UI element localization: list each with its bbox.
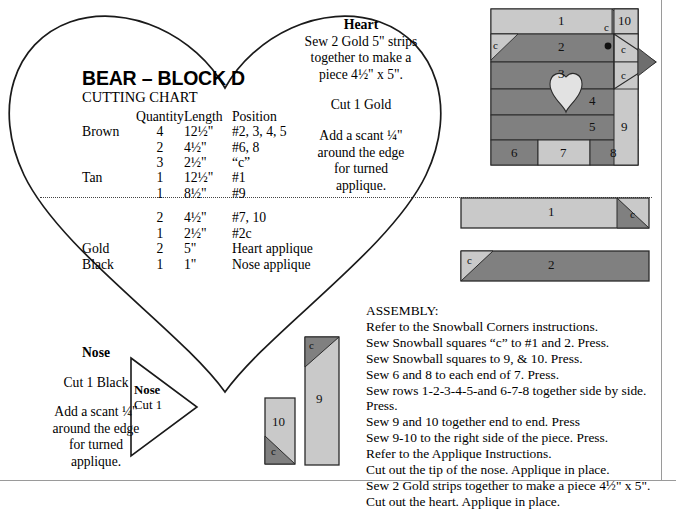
heart-instructions: Heart Sew 2 Gold 5" strips together to m… xyxy=(268,17,454,194)
cutting-chart-cell-length: 5" xyxy=(184,241,232,256)
cutting-chart-cell-quantity: 1 xyxy=(136,257,184,272)
cutting-chart-header-quantity: Quantity xyxy=(136,109,184,124)
cutting-chart-cell-color: Black xyxy=(82,257,136,272)
eye-dot xyxy=(605,43,612,50)
nose-assembly xyxy=(614,34,656,89)
assembly-step: Sew Snowball squares “c” to #1 and 2. Pr… xyxy=(366,335,672,351)
assembly-step: Sew 6 and 8 to each end of 7. Press. xyxy=(366,367,672,383)
cutting-chart-cell-length: 12½" xyxy=(184,170,232,185)
cutting-chart-cell-color: Tan xyxy=(82,170,136,185)
cutting-chart-cell-color xyxy=(82,186,136,201)
cutting-chart-cell-length: 8½" xyxy=(184,186,232,201)
table-row: Black11"Nose applique xyxy=(82,257,313,272)
cutting-chart-cell-length: 4½" xyxy=(184,140,232,155)
assembly-heading: ASSEMBLY: xyxy=(366,303,672,319)
cutting-chart-cell-color xyxy=(82,155,136,170)
cutting-chart-header-color xyxy=(82,109,136,124)
assembly-step-list: Refer to the Snowball Corners instructio… xyxy=(366,319,672,510)
spacer xyxy=(82,201,313,210)
cutting-chart-cell-quantity: 2 xyxy=(136,210,184,225)
assembly-step: Cut out the tip of the nose. Applique in… xyxy=(366,462,672,478)
block-piece-10 xyxy=(614,9,638,34)
cutting-chart-cell-position: #7, 10 xyxy=(232,210,313,225)
cutting-chart-fold-gap xyxy=(82,201,313,210)
table-row: 12½"#2c xyxy=(82,226,313,241)
block-row-6 xyxy=(491,140,538,165)
heart-note-title: Heart xyxy=(268,17,454,34)
assembly-step: Sew 9 and 10 together end to end. Press xyxy=(366,414,672,430)
cutting-chart-cell-quantity: 1 xyxy=(136,226,184,241)
cutting-chart-cell-position: Heart applique xyxy=(232,241,313,256)
heart-note-seam3: for turned xyxy=(268,161,454,178)
piece-10-diagram: 10 c xyxy=(264,397,296,465)
strip-1-diagram: 1 c xyxy=(460,197,650,229)
assembly-step: Sew rows 1-2-3-4-5-and 6-7-8 together si… xyxy=(366,383,672,415)
cutting-chart-cell-quantity: 1 xyxy=(136,170,184,185)
assembly-step: Sew 9-10 to the right side of the piece.… xyxy=(366,430,672,446)
nose-template-cut: Cut 1 xyxy=(134,398,162,412)
block-diagram: 1 2 3 4 5 6 7 8 9 10 c c c c xyxy=(490,8,662,166)
heart-note-line2: together to make a xyxy=(268,50,454,67)
heart-note-seam2: around the edge xyxy=(268,145,454,162)
spacer xyxy=(268,83,454,97)
heart-note-seam1: Add a scant ¼" xyxy=(268,128,454,145)
page-bottom-rule xyxy=(0,480,676,481)
piece-9-diagram: 9 c xyxy=(304,336,340,466)
block-diagram-svg xyxy=(490,8,662,166)
cutting-chart-cell-quantity: 2 xyxy=(136,241,184,256)
cutting-chart-cell-color xyxy=(82,226,136,241)
heart-note-seam4: applique. xyxy=(268,178,454,195)
cutting-chart-cell-length: 12½" xyxy=(184,124,232,139)
cutting-chart-cell-quantity: 1 xyxy=(136,186,184,201)
heart-note-line3: piece 4½" x 5". xyxy=(268,67,454,84)
cutting-chart-cell-length: 1" xyxy=(184,257,232,272)
cutting-chart-header-length: Length xyxy=(184,109,232,124)
cutting-chart-cell-quantity: 3 xyxy=(136,155,184,170)
assembly-instructions: ASSEMBLY: Refer to the Snowball Corners … xyxy=(366,303,672,510)
nose-template-title: Nose xyxy=(134,383,160,397)
nose-template-shape: Nose Cut 1 xyxy=(128,355,200,460)
assembly-step: Refer to the Snowball Corners instructio… xyxy=(366,319,672,335)
cutting-chart-cell-length: 4½" xyxy=(184,210,232,225)
cutting-chart-cell-quantity: 2 xyxy=(136,140,184,155)
nose-template-label: Nose Cut 1 xyxy=(134,383,162,412)
assembly-step: Cut out the heart. Applique in place. xyxy=(366,494,672,510)
heart-note-cut: Cut 1 Gold xyxy=(268,97,454,114)
heart-note-line1: Sew 2 Gold 5" strips xyxy=(268,34,454,51)
cutting-chart-cell-color xyxy=(82,140,136,155)
cutting-chart-cell-color: Brown xyxy=(82,124,136,139)
page-right-rule xyxy=(661,0,662,481)
spacer xyxy=(268,114,454,128)
block-row-7 xyxy=(538,140,590,165)
cutting-chart-cell-quantity: 4 xyxy=(136,124,184,139)
cutting-chart-cell-position: #2c xyxy=(232,226,313,241)
strip-2-diagram: 2 c xyxy=(460,250,650,282)
cutting-chart-cell-length: 2½" xyxy=(184,226,232,241)
table-row: 24½"#7, 10 xyxy=(82,210,313,225)
cutting-chart-cell-position: Nose applique xyxy=(232,257,313,272)
assembly-step: Sew Snowball squares to 9, & 10. Press. xyxy=(366,351,672,367)
assembly-step: Refer to the Applique Instructions. xyxy=(366,446,672,462)
cutting-chart-cell-color: Gold xyxy=(82,241,136,256)
cutting-chart-cell-color xyxy=(82,210,136,225)
table-row: Gold25"Heart applique xyxy=(82,241,313,256)
cutting-chart-cell-length: 2½" xyxy=(184,155,232,170)
